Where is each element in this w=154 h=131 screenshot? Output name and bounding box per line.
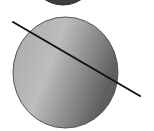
main-circle	[13, 17, 118, 128]
top-partial-circle	[30, 0, 96, 5]
diagram-canvas	[0, 0, 154, 131]
